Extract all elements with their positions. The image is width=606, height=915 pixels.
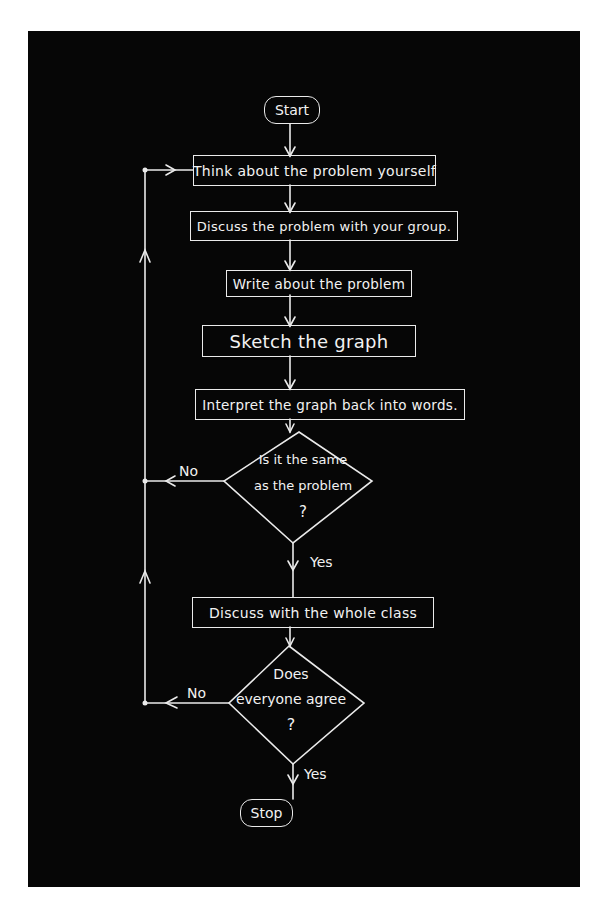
decision-agree-yes-label: Yes [304, 766, 327, 782]
start-label: Start [275, 102, 309, 118]
write-label: Write about the problem [233, 276, 405, 292]
decision-same-yes-label: Yes [310, 554, 333, 570]
start-terminal: Start [264, 96, 320, 124]
think-label: Think about the problem yourself [193, 163, 436, 179]
write-step: Write about the problem [226, 270, 412, 297]
discuss-group-label: Discuss the problem with your group. [197, 219, 452, 234]
decision-agree-line-2: everyone agree [231, 687, 351, 712]
think-step: Think about the problem yourself [193, 155, 436, 186]
interpret-step: Interpret the graph back into words. [195, 389, 465, 420]
decision-same-text: Is it the same as the problem ? [238, 447, 368, 525]
decision-same-line-2: as the problem [238, 473, 368, 499]
decision-same-no-label: No [179, 463, 198, 479]
decision-same-line-3: ? [238, 499, 368, 525]
decision-agree-text: Does everyone agree ? [231, 662, 351, 737]
decision-agree-no-label: No [187, 685, 206, 701]
discuss-group-step: Discuss the problem with your group. [190, 211, 458, 241]
stop-terminal: Stop [240, 799, 293, 827]
sketch-step: Sketch the graph [202, 325, 416, 357]
discuss-class-label: Discuss with the whole class [209, 605, 417, 621]
decision-agree-line-3: ? [231, 712, 351, 737]
discuss-class-step: Discuss with the whole class [192, 597, 434, 628]
interpret-label: Interpret the graph back into words. [202, 397, 458, 413]
decision-agree-line-1: Does [231, 662, 351, 687]
sketch-label: Sketch the graph [229, 331, 388, 352]
stop-label: Stop [251, 805, 283, 821]
decision-same-line-1: Is it the same [238, 447, 368, 473]
